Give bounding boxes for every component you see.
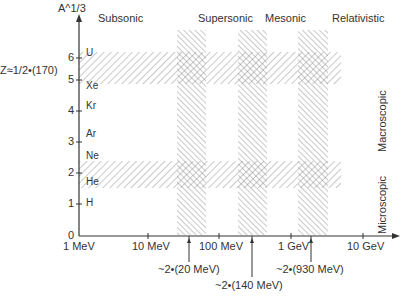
x-tick-10gev: 10 GeV [347, 240, 384, 252]
x-tick-1mev: 1 MeV [63, 240, 95, 252]
x-tick-1gev: 1 GeV [278, 240, 309, 252]
y-tick-1: 1 [68, 197, 74, 209]
threshold-140mev: ~2•(140 MeV) [215, 279, 283, 291]
y-axis-arrow [76, 14, 82, 22]
y-axis-label: A^1/3 [58, 2, 86, 14]
regime-supersonic: Supersonic [198, 12, 253, 24]
side-label-microscopic: Microscopic [376, 176, 388, 234]
band-mesonic [238, 30, 267, 235]
element-ar: Ar [86, 128, 96, 139]
regime-mesonic: Mesonic [265, 12, 306, 24]
threshold-930mev: ~2•(930 MeV) [276, 263, 344, 275]
y-tick-6: 6 [68, 51, 74, 63]
y-tick-5: 5 [68, 73, 74, 85]
y-tick-2: 2 [68, 166, 74, 178]
x-axis-arrow [392, 233, 400, 239]
diagram-canvas [0, 0, 403, 300]
element-he: He [86, 176, 99, 187]
band-supersonic [177, 30, 206, 235]
element-kr: Kr [86, 100, 96, 111]
element-u: U [86, 47, 93, 58]
threshold-20mev: ~2•(20 MeV) [158, 263, 220, 275]
y-tick-3: 3 [68, 135, 74, 147]
regime-relativistic: Relativistic [332, 12, 385, 24]
side-label-macroscopic: Macroscopic [376, 90, 388, 152]
element-xe: Xe [86, 80, 98, 91]
x-tick-10mev: 10 MeV [132, 240, 170, 252]
y-tick-4: 4 [68, 104, 74, 116]
regime-subsonic: Subsonic [98, 12, 143, 24]
element-ne: Ne [86, 150, 99, 161]
x-tick-100mev: 100 MeV [199, 240, 243, 252]
z-annotation: Z≈1/2•(170) [0, 64, 58, 76]
band-relativistic [298, 30, 328, 235]
element-h: H [86, 197, 93, 208]
